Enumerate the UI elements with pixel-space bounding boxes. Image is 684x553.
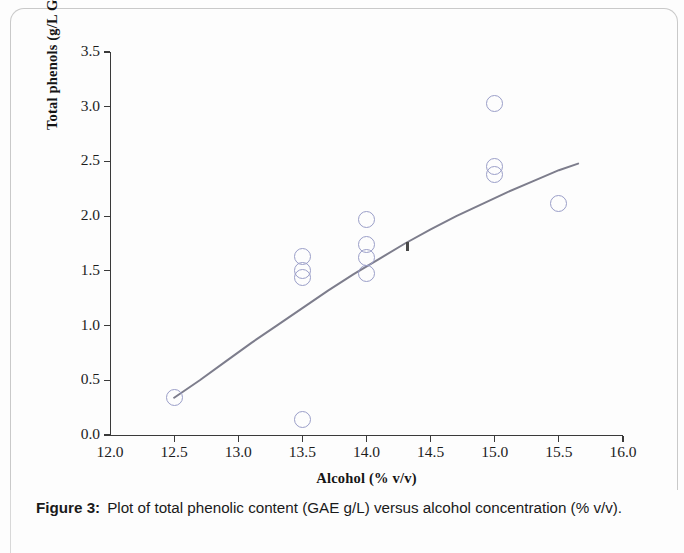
y-tick-label: 0.0 — [60, 426, 100, 442]
figure-page: 0.00.51.01.52.02.53.03.5 12.012.513.013.… — [0, 0, 684, 553]
x-tick-mark — [174, 436, 175, 442]
y-tick-label: 0.5 — [60, 371, 100, 387]
x-tick-mark — [558, 436, 559, 442]
data-point — [294, 269, 311, 286]
x-tick-label: 16.0 — [593, 443, 653, 461]
data-point — [358, 265, 375, 282]
x-tick-label: 13.0 — [208, 443, 268, 461]
x-tick-mark — [366, 436, 367, 442]
y-tick-label-wrap: 0.5 — [52, 380, 100, 381]
x-tick-label: 15.0 — [465, 443, 525, 461]
x-tick-mark — [430, 436, 431, 442]
scatter-chart: 0.00.51.01.52.02.53.03.5 12.012.513.013.… — [0, 0, 684, 495]
data-point — [166, 389, 183, 406]
x-tick-mark — [622, 436, 623, 442]
x-tick-label: 15.5 — [529, 443, 589, 461]
plot-area — [110, 52, 623, 435]
x-tick-label: 12.5 — [144, 443, 204, 461]
y-tick-label: 3.5 — [60, 43, 100, 59]
x-tick-label: 14.5 — [401, 443, 461, 461]
y-tick-label-wrap: 2.5 — [52, 161, 100, 162]
scan-artifact-mark — [406, 242, 409, 251]
figure-caption-label: Figure 3: — [36, 499, 100, 516]
y-tick-label: 2.5 — [60, 152, 100, 168]
y-tick-label-wrap: 1.0 — [52, 326, 100, 327]
x-tick-mark — [494, 436, 495, 442]
y-tick-label: 3.0 — [60, 98, 100, 114]
page-edge-line — [10, 490, 11, 553]
y-axis-title: Total phenols (g/L GAE) — [44, 0, 61, 130]
y-tick-label: 2.0 — [60, 207, 100, 223]
data-point — [550, 195, 567, 212]
x-tick-label: 12.0 — [80, 443, 140, 461]
y-tick-label: 1.0 — [60, 317, 100, 333]
trend-line-path — [174, 164, 578, 398]
data-point — [358, 211, 375, 228]
x-tick-label: 14.0 — [337, 443, 397, 461]
figure-caption-text: Plot of total phenolic content (GAE g/L)… — [107, 499, 622, 516]
x-tick-mark — [238, 436, 239, 442]
y-tick-label-wrap: 2.0 — [52, 216, 100, 217]
x-tick-label: 13.5 — [272, 443, 332, 461]
data-point — [294, 411, 311, 428]
y-tick-label-wrap: 1.5 — [52, 271, 100, 272]
y-tick-label-wrap: 0.0 — [52, 435, 100, 436]
figure-area: 0.00.51.01.52.02.53.03.5 12.012.513.013.… — [0, 0, 684, 495]
figure-caption: Figure 3:Plot of total phenolic content … — [36, 498, 648, 518]
y-tick-label: 1.5 — [60, 262, 100, 278]
x-tick-mark — [302, 436, 303, 442]
x-axis-title: Alcohol (% v/v) — [110, 470, 623, 487]
